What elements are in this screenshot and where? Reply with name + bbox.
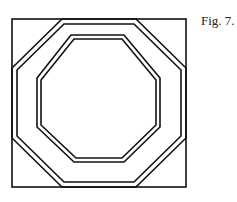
inner-octagon-outer-line xyxy=(37,35,160,162)
figure-caption: Fig. 7. xyxy=(201,13,235,29)
inner-octagon-inner-line xyxy=(41,39,156,158)
octagon-figure xyxy=(0,0,237,202)
